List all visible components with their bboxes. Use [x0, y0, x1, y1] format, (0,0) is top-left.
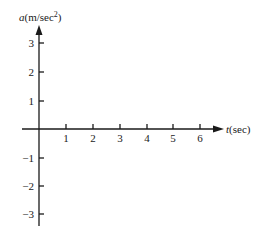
svg-text:2: 2	[90, 132, 96, 144]
svg-text:1: 1	[29, 95, 35, 107]
svg-text:3: 3	[29, 37, 35, 49]
svg-text:−1: −1	[22, 152, 34, 164]
y-axis-label: a(m/sec2)	[19, 10, 62, 24]
svg-text:6: 6	[197, 132, 203, 144]
svg-text:2: 2	[29, 66, 35, 78]
x-axis-label: t(sec)	[226, 123, 251, 136]
x-tick-labels: 1 2 3 4 5 6	[63, 132, 203, 144]
x-axis-arrow-icon	[213, 126, 224, 133]
svg-text:5: 5	[170, 132, 176, 144]
svg-text:3: 3	[117, 132, 123, 144]
svg-text:−3: −3	[22, 208, 34, 220]
svg-text:1: 1	[63, 132, 69, 144]
svg-text:4: 4	[144, 132, 150, 144]
acceleration-time-axes: a(m/sec2) t(sec) 3 2 1 −1 −2 −3 1 2 3 4 …	[0, 0, 259, 237]
y-axis-arrow-icon	[36, 25, 43, 35]
svg-text:−2: −2	[22, 180, 34, 192]
